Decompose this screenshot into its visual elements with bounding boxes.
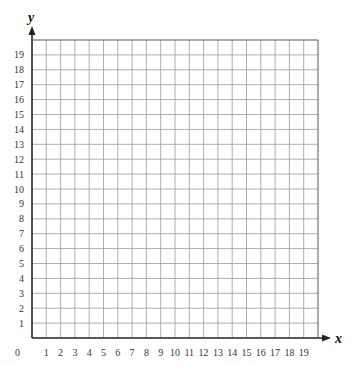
y-tick-label: 11 xyxy=(14,169,24,180)
y-tick-label: 8 xyxy=(19,213,24,224)
x-tick-label: 13 xyxy=(213,347,223,358)
x-tick-label: 11 xyxy=(184,347,194,358)
y-tick-label: 15 xyxy=(14,109,24,120)
y-tick-label: 7 xyxy=(19,228,24,239)
y-tick-label: 1 xyxy=(19,318,24,329)
x-tick-label: 9 xyxy=(158,347,163,358)
y-tick-label: 5 xyxy=(19,258,24,269)
y-axis-arrow-icon xyxy=(29,26,36,35)
x-axis-arrow-icon xyxy=(322,335,331,342)
origin-label: 0 xyxy=(15,347,20,358)
x-tick-label: 16 xyxy=(256,347,266,358)
y-tick-label: 18 xyxy=(14,64,24,75)
x-tick-labels: 12345678910111213141516171819 xyxy=(44,347,309,358)
y-tick-label: 6 xyxy=(19,243,24,254)
x-tick-label: 17 xyxy=(270,347,280,358)
y-tick-label: 16 xyxy=(14,94,24,105)
y-axis-label: y xyxy=(26,10,35,25)
y-tick-label: 19 xyxy=(14,49,24,60)
axes xyxy=(29,26,332,342)
x-tick-label: 14 xyxy=(227,347,237,358)
x-tick-label: 10 xyxy=(170,347,180,358)
x-tick-label: 1 xyxy=(44,347,49,358)
x-tick-label: 4 xyxy=(87,347,92,358)
y-tick-label: 4 xyxy=(19,273,24,284)
x-tick-label: 12 xyxy=(199,347,209,358)
x-tick-label: 15 xyxy=(242,347,252,358)
x-tick-label: 6 xyxy=(115,347,120,358)
x-tick-label: 2 xyxy=(58,347,63,358)
x-axis-label: x xyxy=(334,331,342,346)
x-tick-label: 8 xyxy=(144,347,149,358)
y-tick-label: 12 xyxy=(14,154,24,165)
x-tick-label: 3 xyxy=(72,347,77,358)
coordinate-grid: y x 0 12345678910111213141516171819 1234… xyxy=(0,0,353,366)
x-tick-label: 19 xyxy=(299,347,309,358)
y-tick-label: 3 xyxy=(19,288,24,299)
y-tick-label: 10 xyxy=(14,184,24,195)
y-tick-label: 2 xyxy=(19,303,24,314)
x-tick-label: 18 xyxy=(284,347,294,358)
x-tick-label: 5 xyxy=(101,347,106,358)
y-tick-label: 14 xyxy=(14,124,24,135)
grid-lines xyxy=(32,40,318,338)
x-tick-label: 7 xyxy=(130,347,135,358)
y-tick-label: 17 xyxy=(14,79,24,90)
y-tick-label: 13 xyxy=(14,139,24,150)
y-tick-label: 9 xyxy=(19,198,24,209)
y-tick-labels: 12345678910111213141516171819 xyxy=(14,49,24,328)
